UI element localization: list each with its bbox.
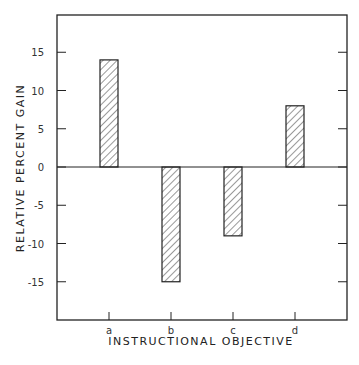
bar-a (100, 60, 118, 167)
x-axis-label: INSTRUCTIONAL OBJECTIVE (108, 335, 294, 348)
chart-container: 151050-5-10-15abcd INSTRUCTIONAL OBJECTI… (0, 0, 359, 365)
y-tick-label: 10 (31, 86, 44, 97)
y-tick-label: 15 (31, 47, 44, 58)
bar-chart: 151050-5-10-15abcd INSTRUCTIONAL OBJECTI… (0, 0, 359, 365)
y-tick-label: -5 (34, 200, 44, 211)
bar-c (224, 167, 242, 236)
y-tick-label: 5 (38, 124, 44, 135)
y-tick-label: -15 (28, 277, 44, 288)
bar-d (286, 106, 304, 167)
bar-b (162, 167, 180, 282)
y-tick-label: 0 (38, 162, 44, 173)
y-axis-label: RELATIVE PERCENT GAIN (14, 84, 27, 252)
y-tick-label: -10 (28, 239, 44, 250)
